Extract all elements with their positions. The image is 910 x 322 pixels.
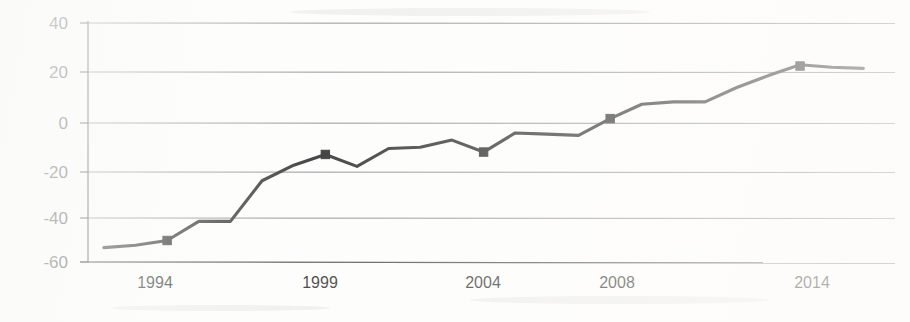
- data-point-marker: [479, 148, 487, 156]
- chart-container: 40 20 0 -20 -40 -60 1994 1999 2004 2008 …: [0, 0, 910, 322]
- y-tick-label-40: 40: [49, 14, 68, 33]
- gridlines: [88, 23, 895, 219]
- data-markers: [163, 62, 804, 245]
- y-tick-label-m60: -60: [43, 253, 68, 272]
- y-tick-label-0: 0: [59, 114, 68, 133]
- y-tick-labels: 40 20 0 -20 -40 -60: [43, 14, 68, 272]
- y-tick-label-20: 20: [49, 63, 68, 82]
- data-point-marker: [163, 236, 171, 244]
- x-tick-labels: 1994 1999 2004 2008 2014: [137, 274, 830, 291]
- y-tick-marks: [80, 23, 88, 262]
- line-chart: 40 20 0 -20 -40 -60 1994 1999 2004 2008 …: [0, 0, 910, 322]
- y-tick-label-m20: -20: [43, 163, 68, 182]
- x-axis-line: [80, 262, 895, 263]
- x-tick-label-2008: 2008: [599, 274, 635, 291]
- x-tick-label-1994: 1994: [137, 274, 173, 291]
- x-tick-label-2014: 2014: [794, 274, 830, 291]
- x-tick-label-1999: 1999: [302, 274, 338, 291]
- y-tick-label-m40: -40: [43, 209, 68, 228]
- data-point-marker: [796, 62, 804, 70]
- data-point-marker: [321, 150, 329, 158]
- scan-artifacts: [110, 8, 770, 311]
- x-tick-label-2004: 2004: [465, 274, 501, 291]
- data-point-marker: [606, 114, 614, 122]
